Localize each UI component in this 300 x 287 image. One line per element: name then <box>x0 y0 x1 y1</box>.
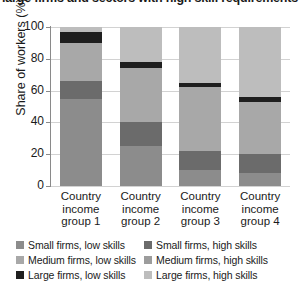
bar-segment-large_high[interactable] <box>239 27 281 97</box>
bar-segment-large_low[interactable] <box>120 62 162 68</box>
legend-swatch <box>16 256 24 264</box>
bar-segment-large_high[interactable] <box>179 27 221 83</box>
legend-label: Large firms, low skills <box>28 269 125 281</box>
legend-label: Large firms, high skills <box>156 269 257 281</box>
legend-label: Medium firms, high skills <box>156 254 268 266</box>
bar-segment-large_high[interactable] <box>60 27 102 32</box>
x-tick-label: Countryincomegroup 3 <box>171 190 229 228</box>
chart-figure: large firms and sectors with high skill … <box>0 0 300 287</box>
bar-segment-medium_low[interactable] <box>239 102 281 154</box>
plot-area <box>51 27 290 186</box>
y-tick-label: 60 <box>4 83 44 97</box>
legend-item[interactable]: Large firms, high skills <box>144 269 294 281</box>
chart-title: large firms and sectors with high skill … <box>0 0 300 7</box>
legend-label: Small firms, high skills <box>156 239 257 251</box>
bar-segment-small_high[interactable] <box>179 151 221 170</box>
y-tick-label: 20 <box>4 146 44 160</box>
bar-segment-small_low[interactable] <box>60 99 102 186</box>
bar-segment-small_high[interactable] <box>60 81 102 98</box>
bar-segment-medium_low[interactable] <box>60 43 102 81</box>
x-tick-label: Countryincomegroup 1 <box>52 190 110 228</box>
x-tick-label: Countryincomegroup 4 <box>231 190 289 228</box>
legend-item[interactable]: Medium firms, high skills <box>144 254 294 266</box>
y-tick-label: 80 <box>4 51 44 65</box>
bar-segment-medium_low[interactable] <box>120 68 162 122</box>
bar-stack[interactable] <box>60 27 102 186</box>
legend-label: Small firms, low skills <box>28 239 125 251</box>
bar-stack[interactable] <box>179 27 221 186</box>
x-tick-label: Countryincomegroup 2 <box>112 190 170 228</box>
legend-swatch <box>16 241 24 249</box>
bar-segment-small_high[interactable] <box>239 154 281 173</box>
bar-segment-large_low[interactable] <box>239 97 281 102</box>
bar-segment-small_low[interactable] <box>120 146 162 186</box>
legend-item[interactable]: Medium firms, low skills <box>16 254 144 266</box>
chart-legend: Small firms, low skillsSmall firms, high… <box>16 237 294 282</box>
legend-swatch <box>16 271 24 279</box>
bar-segment-small_low[interactable] <box>239 173 281 186</box>
bar-segment-medium_low[interactable] <box>179 87 221 151</box>
legend-swatch <box>144 241 152 249</box>
legend-item[interactable]: Small firms, high skills <box>144 239 294 251</box>
bar-segment-large_low[interactable] <box>60 32 102 43</box>
y-tick-label: 100 <box>4 19 44 33</box>
bar-stack[interactable] <box>239 27 281 186</box>
y-tick-label: 40 <box>4 114 44 128</box>
bar-segment-large_low[interactable] <box>179 83 221 88</box>
legend-item[interactable]: Small firms, low skills <box>16 239 144 251</box>
bar-segment-small_low[interactable] <box>179 170 221 186</box>
gridline <box>51 186 290 187</box>
legend-label: Medium firms, low skills <box>28 254 136 266</box>
bar-segment-large_high[interactable] <box>120 27 162 62</box>
bar-segment-small_high[interactable] <box>120 122 162 146</box>
bar-stack[interactable] <box>120 27 162 186</box>
legend-swatch <box>144 256 152 264</box>
legend-swatch <box>144 271 152 279</box>
y-tick-label: 0 <box>4 178 44 192</box>
legend-item[interactable]: Large firms, low skills <box>16 269 144 281</box>
